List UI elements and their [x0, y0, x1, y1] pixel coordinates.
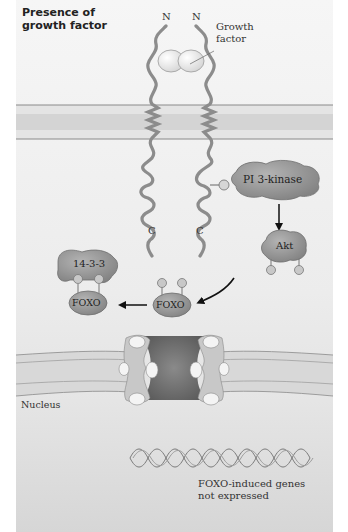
c-terminus-left: C [148, 225, 156, 236]
diagram-canvas [0, 0, 348, 532]
nuclear-pore-complex [119, 335, 229, 405]
pi3k-label: PI 3-kinase [243, 173, 302, 185]
plasma-membrane [16, 105, 333, 139]
n-terminus-right: N [192, 11, 201, 22]
foxo-bound-label: FOXO [72, 297, 101, 308]
foxo-signaling-diagram: Presence of growth factor N N Growth fac… [0, 0, 348, 532]
nucleus-label: Nucleus [21, 399, 60, 410]
growth-factor-label: Growth factor [216, 21, 276, 45]
c-terminus-right: C [196, 225, 204, 236]
protein-14-3-3-label: 14-3-3 [73, 258, 105, 269]
figure-title: Presence of growth factor [22, 6, 132, 32]
phosphate-receptor [219, 180, 229, 190]
genes-label: FOXO-induced genes not expressed [198, 478, 318, 502]
n-terminus-left: N [162, 11, 171, 22]
foxo-free-label: FOXO [156, 299, 185, 310]
akt-label: Akt [276, 240, 293, 251]
